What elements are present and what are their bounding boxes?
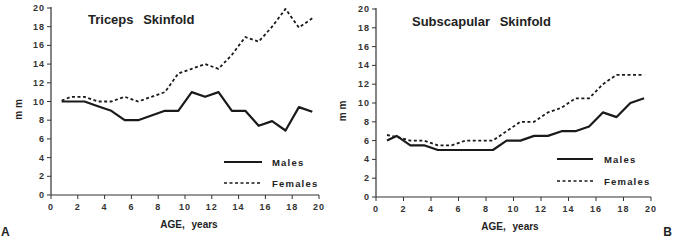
legend: MalesFemales bbox=[224, 157, 318, 189]
y-tick-label: 6 bbox=[364, 136, 370, 146]
x-tick-label: 2 bbox=[75, 202, 81, 212]
y-tick-label: 10 bbox=[33, 97, 45, 107]
y-tick-label: 4 bbox=[364, 154, 370, 164]
y-tick-label: 12 bbox=[358, 79, 370, 89]
x-axis-label: AGE, years bbox=[160, 219, 218, 230]
x-tick-label: 8 bbox=[483, 204, 489, 214]
panel-label: A bbox=[1, 225, 10, 239]
chart-title: Triceps Skinfold bbox=[88, 12, 194, 27]
x-tick-label: 4 bbox=[102, 202, 108, 212]
x-tick-label: 12 bbox=[206, 202, 218, 212]
y-tick-label: 16 bbox=[33, 40, 45, 50]
x-tick-label: 14 bbox=[562, 204, 574, 214]
x-tick-label: 4 bbox=[428, 204, 434, 214]
y-tick-label: 18 bbox=[33, 22, 45, 32]
x-tick-label: 20 bbox=[313, 202, 325, 212]
x-tick-label: 18 bbox=[286, 202, 298, 212]
x-tick-label: 20 bbox=[645, 204, 657, 214]
x-tick-label: 10 bbox=[507, 204, 519, 214]
legend: MalesFemales bbox=[557, 154, 650, 187]
x-tick-label: 2 bbox=[400, 204, 406, 214]
chart-subscapular: 0246810121416182002468101214161820Subsca… bbox=[337, 4, 672, 239]
y-tick-label: 4 bbox=[39, 153, 45, 163]
chart-triceps: 0246810121416182002468101214161820Tricep… bbox=[1, 3, 325, 239]
y-tick-label: 12 bbox=[33, 78, 45, 88]
x-tick-label: 0 bbox=[373, 204, 379, 214]
x-tick-label: 12 bbox=[535, 204, 547, 214]
y-tick-label: 18 bbox=[358, 23, 370, 33]
y-tick-label: 0 bbox=[364, 192, 370, 202]
y-tick-label: 14 bbox=[33, 59, 45, 69]
legend-label-females: Females bbox=[272, 178, 318, 189]
y-tick-label: 2 bbox=[364, 173, 370, 183]
x-axis-label: AGE, years bbox=[481, 221, 539, 232]
y-tick-label: 6 bbox=[39, 134, 45, 144]
series-males bbox=[387, 98, 644, 150]
series-females bbox=[387, 75, 644, 146]
y-tick-label: 20 bbox=[33, 3, 45, 13]
x-tick-label: 6 bbox=[128, 202, 134, 212]
y-axis-label: m m bbox=[13, 99, 24, 120]
x-tick-label: 14 bbox=[233, 202, 245, 212]
y-tick-label: 14 bbox=[358, 60, 370, 70]
x-tick-label: 10 bbox=[179, 202, 191, 212]
legend-label-males: Males bbox=[604, 154, 636, 165]
legend-label-females: Females bbox=[604, 176, 650, 187]
y-tick-label: 8 bbox=[364, 117, 370, 127]
y-tick-label: 8 bbox=[39, 115, 45, 125]
x-tick-label: 6 bbox=[455, 204, 461, 214]
x-tick-label: 18 bbox=[617, 204, 629, 214]
legend-label-males: Males bbox=[272, 157, 304, 168]
y-tick-label: 20 bbox=[358, 4, 370, 14]
y-axis-label: m m bbox=[337, 101, 348, 122]
x-tick-label: 16 bbox=[590, 204, 602, 214]
y-tick-label: 2 bbox=[39, 171, 45, 181]
panel-label: B bbox=[663, 225, 672, 239]
figure: 0246810121416182002468101214161820Tricep… bbox=[0, 0, 673, 239]
chart-title: Subscapular Skinfold bbox=[412, 14, 551, 29]
y-tick-label: 10 bbox=[358, 98, 370, 108]
y-tick-label: 16 bbox=[358, 42, 370, 52]
x-tick-label: 0 bbox=[48, 202, 54, 212]
x-tick-label: 16 bbox=[259, 202, 271, 212]
x-tick-label: 8 bbox=[155, 202, 161, 212]
y-tick-label: 0 bbox=[39, 190, 45, 200]
series-males bbox=[62, 92, 313, 130]
